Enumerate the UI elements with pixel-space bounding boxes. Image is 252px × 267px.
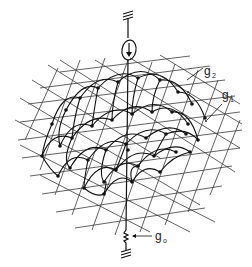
bottom-ground-icon xyxy=(121,249,131,258)
grounding-resistor-icon xyxy=(124,230,128,250)
current-source-icon xyxy=(120,39,137,61)
label-g0: g o xyxy=(132,229,167,244)
label-g2: g 2 xyxy=(187,64,216,80)
grid-network-diagram: g 2 g 1 g o xyxy=(0,0,252,267)
svg-text:g: g xyxy=(222,88,229,102)
svg-text:o: o xyxy=(163,237,167,244)
arc-connections xyxy=(42,71,205,195)
top-ground-icon xyxy=(123,11,133,38)
svg-text:2: 2 xyxy=(212,72,216,79)
svg-text:g: g xyxy=(155,229,162,243)
svg-text:g: g xyxy=(204,64,211,78)
svg-text:1: 1 xyxy=(230,96,234,103)
label-g1: g 1 xyxy=(187,88,234,122)
